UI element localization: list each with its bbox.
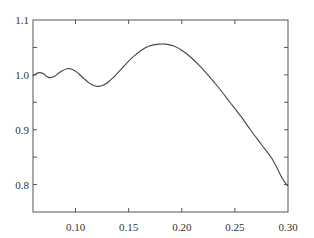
y-tick-label: 0.8 xyxy=(15,179,29,191)
x-axis-tick-labels: 0.100.150.200.250.30 xyxy=(66,221,298,233)
x-axis-ticks xyxy=(76,20,235,212)
x-tick-label: 0.15 xyxy=(119,221,139,233)
x-tick-label: 0.25 xyxy=(225,221,245,233)
plot-frame xyxy=(33,20,288,212)
line-chart: 0.100.150.200.250.30 0.80.91.01.1 xyxy=(0,0,314,238)
y-tick-label: 1.0 xyxy=(15,69,29,81)
x-tick-label: 0.10 xyxy=(66,221,86,233)
y-axis-tick-labels: 0.80.91.01.1 xyxy=(15,14,29,191)
data-series-line xyxy=(33,44,288,186)
x-tick-label: 0.30 xyxy=(278,221,298,233)
y-axis-ticks xyxy=(33,47,288,184)
x-tick-label: 0.20 xyxy=(172,221,192,233)
y-tick-label: 0.9 xyxy=(15,124,29,136)
y-tick-label: 1.1 xyxy=(15,14,29,26)
